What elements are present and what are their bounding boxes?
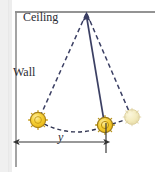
page-edge-shading bbox=[0, 0, 9, 172]
pendulum-bob-right-ghost bbox=[123, 108, 141, 126]
pendulum-bob-center bbox=[96, 116, 115, 135]
pendulum-figure: Ceiling Wall y bbox=[0, 0, 155, 172]
pendulum-bob-left bbox=[29, 111, 48, 130]
figure-background bbox=[0, 0, 155, 172]
ceiling-label: Ceiling bbox=[23, 11, 58, 23]
page-edge-shading-inner bbox=[8, 0, 12, 172]
wall-label: Wall bbox=[13, 66, 35, 78]
figure-canvas bbox=[0, 0, 155, 172]
distance-label-y: y bbox=[58, 131, 63, 143]
